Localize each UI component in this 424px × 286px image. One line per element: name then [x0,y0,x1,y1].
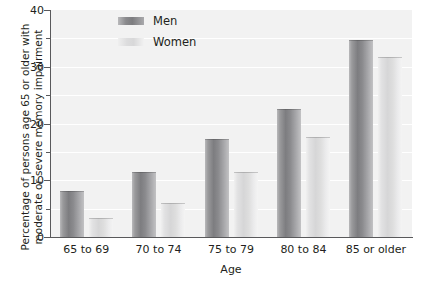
bar-chart: 40 30 20 10 0 Percentage of persons age … [0,0,424,286]
bar-women-80-to-84 [306,137,330,237]
y-tick-5 [46,209,50,210]
x-tick-labels: 65 to 69 70 to 74 75 to 79 80 to 84 85 o… [50,243,412,265]
x-axis-line [50,237,413,238]
y-axis-line [50,10,51,238]
y-axis-title-line2: moderate or severe memory impairment [32,30,44,245]
y-axis-title: Percentage of persons age 65 or older wi… [19,21,45,253]
bar-women-65-to-69 [89,218,113,237]
y-tick-25 [46,95,50,96]
legend-label-women: Women [153,35,196,49]
legend-swatch-men-icon [118,17,144,25]
legend: Men Women [118,14,196,49]
x-tick-label-80-to-84: 80 to 84 [280,243,326,256]
x-tick-label-85-or-older: 85 or older [346,243,406,256]
y-tick-40 [44,10,50,11]
legend-swatch-women-icon [118,38,144,46]
legend-item-women: Women [118,35,196,49]
bar-women-70-to-74 [161,203,185,237]
bar-women-75-to-79 [234,172,258,237]
x-tick-label-70-to-74: 70 to 74 [136,243,182,256]
bars-layer [50,10,412,237]
y-tick-35 [46,38,50,39]
x-tick-label-75-to-79: 75 to 79 [208,243,254,256]
bar-men-80-to-84 [277,109,301,237]
bar-men-65-to-69 [60,191,84,237]
x-tick-label-65-to-69: 65 to 69 [63,243,109,256]
bar-men-75-to-79 [205,139,229,237]
bar-women-85-or-older [378,57,402,237]
x-axis-title: Age [50,263,412,276]
legend-item-men: Men [118,14,196,28]
bar-men-70-to-74 [132,172,156,237]
y-tick-15 [46,152,50,153]
y-axis-title-line1: Percentage of persons age 65 or older wi… [19,24,31,251]
y-tick-label-40: 40 [30,4,44,17]
bar-men-85-or-older [349,40,373,237]
legend-label-men: Men [153,14,177,28]
